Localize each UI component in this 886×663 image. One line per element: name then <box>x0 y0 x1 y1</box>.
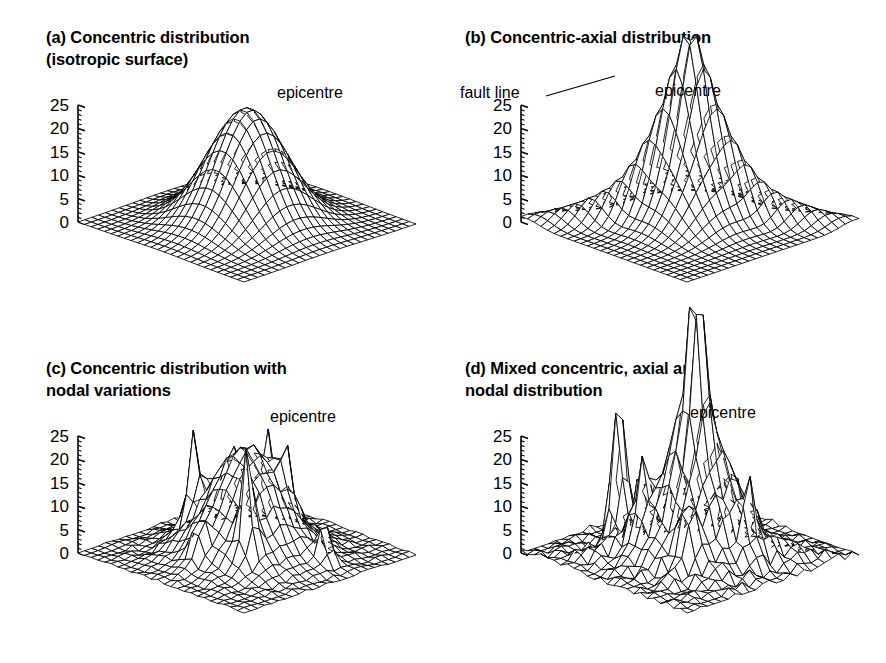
panel-c-plot: 0510152025 <box>0 331 443 662</box>
panel-b-plot: 0510152025 <box>443 0 886 331</box>
figure-root: (a) Concentric distribution (isotropic s… <box>0 0 886 663</box>
z-tick-label: 25 <box>493 427 512 446</box>
z-axis: 0510152025 <box>50 427 85 563</box>
z-tick-label: 15 <box>50 143 69 162</box>
z-tick-label: 15 <box>493 474 512 493</box>
z-tick-label: 10 <box>50 166 69 185</box>
z-tick-label: 0 <box>503 544 512 563</box>
z-tick-label: 0 <box>60 213 69 232</box>
panel-c: (c) Concentric distribution with nodal v… <box>0 331 443 662</box>
epicentre-label: epicentre <box>270 408 336 426</box>
epicentre-label: epicentre <box>277 84 343 102</box>
z-tick-label: 5 <box>503 190 512 209</box>
z-tick-label: 10 <box>493 497 512 516</box>
z-tick-label: 25 <box>50 427 69 446</box>
panel-a-plot: 0510152025 <box>0 0 443 331</box>
z-tick-label: 15 <box>493 143 512 162</box>
z-tick-label: 5 <box>60 521 69 540</box>
z-tick-label: 15 <box>50 474 69 493</box>
z-tick-label: 0 <box>60 544 69 563</box>
panel-b: (b) Concentric-axial distribution 051015… <box>443 0 886 331</box>
fault-line-leader <box>546 76 615 96</box>
z-tick-label: 0 <box>503 213 512 232</box>
fault-line-label: fault line <box>460 84 520 102</box>
z-tick-label: 5 <box>503 521 512 540</box>
z-axis: 0510152025 <box>493 427 528 563</box>
z-tick-label: 25 <box>50 96 69 115</box>
panel-d: (d) Mixed concentric, axial and nodal di… <box>443 331 886 662</box>
z-tick-label: 20 <box>50 450 69 469</box>
z-tick-label: 20 <box>50 119 69 138</box>
z-tick-label: 10 <box>493 166 512 185</box>
z-tick-label: 20 <box>493 450 512 469</box>
epicentre-label: epicentre <box>690 404 756 422</box>
epicentre-label: epicentre <box>655 82 721 100</box>
z-tick-label: 10 <box>50 497 69 516</box>
z-tick-label: 20 <box>493 119 512 138</box>
panel-a: (a) Concentric distribution (isotropic s… <box>0 0 443 331</box>
z-axis: 0510152025 <box>50 96 85 232</box>
z-axis: 0510152025 <box>493 96 528 232</box>
z-tick-label: 5 <box>60 190 69 209</box>
panel-d-plot: 0510152025 <box>443 331 886 662</box>
